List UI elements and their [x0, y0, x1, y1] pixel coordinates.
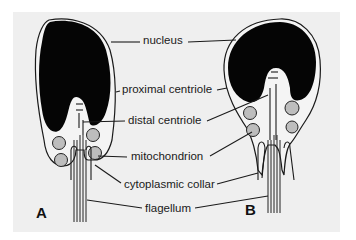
cell-a-mitochondrion: [55, 154, 68, 167]
cell-b-mitochondrion: [244, 107, 257, 120]
panel-label-a: A: [36, 204, 47, 221]
cell-a-mitochondrion: [87, 129, 100, 142]
cell-b-mitochondrion: [286, 121, 298, 133]
cell-b-mitochondrion: [285, 101, 299, 115]
label-cytoplasmic-collar: cytoplasmic collar: [124, 178, 215, 190]
sperm-head-diagram: A B nucleus proximal centriole distal ce…: [0, 0, 356, 240]
label-mitochondrion: mitochondrion: [131, 150, 203, 162]
cell-a-mitochondrion: [53, 137, 66, 150]
label-flagellum: flagellum: [145, 202, 191, 214]
panel-label-b: B: [245, 201, 256, 218]
label-distal-centriole: distal centriole: [128, 114, 202, 126]
label-proximal-centriole: proximal centriole: [122, 83, 212, 95]
label-nucleus: nucleus: [143, 34, 183, 46]
